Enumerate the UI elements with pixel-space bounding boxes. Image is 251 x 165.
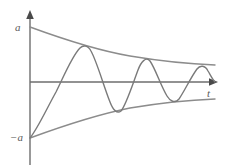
damped-oscillation-figure: a −a t	[0, 0, 251, 165]
lower-envelope-curve	[30, 99, 215, 138]
time-axis-label: t	[207, 88, 210, 99]
upper-envelope-curve	[30, 27, 215, 65]
amplitude-negative-label: −a	[10, 132, 23, 143]
amplitude-axis-group	[26, 10, 34, 165]
amplitude-positive-label: a	[15, 22, 21, 33]
amplitude-axis-arrowhead	[26, 10, 34, 19]
plot-canvas	[0, 0, 251, 165]
damped-sine-curve	[30, 46, 215, 138]
